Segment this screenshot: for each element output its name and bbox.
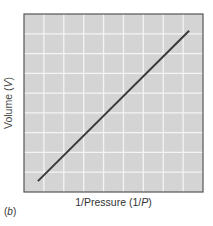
chart-area xyxy=(0,0,213,226)
y-axis-label: Volume (V) xyxy=(2,63,16,143)
panel-label: (b) xyxy=(4,206,16,217)
x-axis-label: 1/Pressure (1/P) xyxy=(24,196,203,208)
plot-background xyxy=(24,14,203,192)
